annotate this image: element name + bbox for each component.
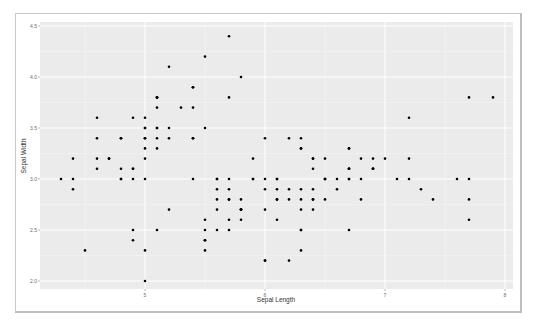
data-point bbox=[60, 178, 63, 181]
data-point bbox=[300, 229, 303, 232]
data-point bbox=[228, 229, 231, 232]
data-point bbox=[348, 168, 351, 171]
data-point bbox=[288, 137, 291, 140]
x-tick-label: 5 bbox=[144, 292, 147, 298]
data-point bbox=[300, 147, 303, 150]
data-point bbox=[300, 198, 303, 201]
data-point bbox=[300, 208, 303, 211]
data-point bbox=[396, 178, 399, 181]
x-axis-title: Sepal Length bbox=[257, 296, 296, 304]
data-point bbox=[240, 76, 243, 79]
data-point bbox=[288, 188, 291, 191]
data-point bbox=[96, 117, 99, 120]
data-point bbox=[228, 219, 231, 222]
data-point bbox=[228, 35, 231, 38]
data-point bbox=[288, 198, 291, 201]
data-point bbox=[204, 229, 207, 232]
data-point bbox=[156, 127, 159, 130]
y-tick-label: 3.5 bbox=[30, 125, 37, 131]
data-point bbox=[276, 188, 279, 191]
scatter-plot: 5678 2.02.53.03.54.04.5 Sepal Length Sep… bbox=[0, 0, 538, 328]
y-axis-ticks: 2.02.53.03.54.04.5 bbox=[30, 23, 40, 284]
data-point bbox=[204, 55, 207, 58]
data-point bbox=[312, 198, 315, 201]
data-point bbox=[120, 178, 123, 181]
data-point bbox=[156, 137, 159, 140]
data-point bbox=[300, 249, 303, 252]
data-point bbox=[96, 157, 99, 160]
data-point bbox=[408, 117, 411, 120]
data-point bbox=[132, 117, 135, 120]
data-point bbox=[324, 198, 327, 201]
data-point bbox=[372, 157, 375, 160]
data-point bbox=[204, 249, 207, 252]
data-point bbox=[168, 66, 171, 69]
data-point bbox=[300, 137, 303, 140]
data-point bbox=[360, 157, 363, 160]
data-point bbox=[156, 147, 159, 150]
data-point bbox=[192, 137, 195, 140]
data-point bbox=[120, 168, 123, 171]
y-tick-label: 4.0 bbox=[30, 74, 37, 80]
data-point bbox=[240, 198, 243, 201]
data-point bbox=[144, 178, 147, 181]
data-point bbox=[108, 157, 111, 160]
data-point bbox=[276, 178, 279, 181]
data-point bbox=[204, 239, 207, 242]
data-point bbox=[408, 157, 411, 160]
data-point bbox=[168, 137, 171, 140]
data-point bbox=[228, 188, 231, 191]
data-point bbox=[120, 137, 123, 140]
y-tick-label: 2.5 bbox=[30, 227, 37, 233]
data-point bbox=[348, 229, 351, 232]
data-point bbox=[144, 127, 147, 130]
data-point bbox=[216, 208, 219, 211]
data-point bbox=[420, 188, 423, 191]
data-point bbox=[264, 259, 267, 262]
data-point bbox=[132, 229, 135, 232]
data-point bbox=[144, 117, 147, 120]
data-point bbox=[264, 178, 267, 181]
data-point bbox=[240, 219, 243, 222]
data-point bbox=[312, 208, 315, 211]
data-point bbox=[336, 178, 339, 181]
data-point bbox=[336, 188, 339, 191]
data-point bbox=[252, 178, 255, 181]
data-point bbox=[96, 168, 99, 171]
data-point bbox=[468, 198, 471, 201]
data-point bbox=[324, 178, 327, 181]
data-point bbox=[156, 106, 159, 109]
data-point bbox=[216, 178, 219, 181]
data-point bbox=[240, 208, 243, 211]
data-point bbox=[180, 106, 183, 109]
data-point bbox=[468, 219, 471, 222]
data-point bbox=[312, 188, 315, 191]
data-point bbox=[72, 178, 75, 181]
data-point bbox=[264, 137, 267, 140]
y-tick-label: 4.5 bbox=[30, 23, 37, 29]
data-point bbox=[72, 157, 75, 160]
data-point bbox=[168, 127, 171, 130]
data-point bbox=[156, 96, 159, 99]
data-point bbox=[144, 137, 147, 140]
data-point bbox=[192, 178, 195, 181]
data-point bbox=[156, 229, 159, 232]
data-point bbox=[312, 157, 315, 160]
data-point bbox=[348, 178, 351, 181]
data-point bbox=[72, 188, 75, 191]
data-point bbox=[228, 198, 231, 201]
data-point bbox=[192, 86, 195, 89]
plot-panel bbox=[40, 22, 513, 289]
data-point bbox=[132, 178, 135, 181]
data-point bbox=[132, 168, 135, 171]
data-point bbox=[492, 96, 495, 99]
data-point bbox=[276, 198, 279, 201]
data-point bbox=[96, 137, 99, 140]
y-tick-label: 3.0 bbox=[30, 176, 37, 182]
data-point bbox=[372, 168, 375, 171]
data-point bbox=[288, 259, 291, 262]
data-point bbox=[216, 188, 219, 191]
data-point bbox=[360, 198, 363, 201]
data-point bbox=[468, 96, 471, 99]
y-axis-title: Sepal Width bbox=[20, 138, 28, 173]
